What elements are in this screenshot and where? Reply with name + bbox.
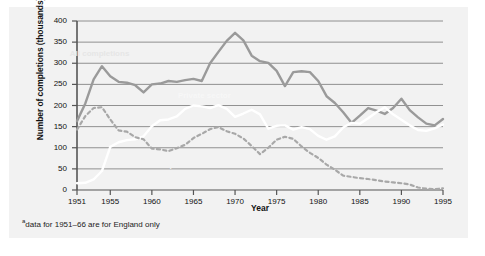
- x-tick-label: 1951: [60, 197, 94, 206]
- x-tick-label: 1995: [426, 197, 460, 206]
- series-label-1: Private sector: [178, 91, 231, 100]
- chart-figure: Number of completions (thousands) 050100…: [0, 0, 485, 256]
- x-tick-label: 1980: [301, 197, 335, 206]
- x-tick-label: 1955: [93, 197, 127, 206]
- y-tick-label: 300: [41, 58, 67, 67]
- y-tick-label: 400: [41, 16, 67, 25]
- y-tick-label: 50: [41, 164, 67, 173]
- x-tick-label: 1960: [135, 197, 169, 206]
- series-line-2: [77, 107, 443, 189]
- y-tick-label: 0: [41, 185, 67, 194]
- y-tick-label: 150: [41, 122, 67, 131]
- x-tick-label: 1990: [384, 197, 418, 206]
- x-axis-title: Year: [220, 203, 300, 213]
- x-tick-label: 1965: [176, 197, 210, 206]
- y-tick-label: 350: [41, 37, 67, 46]
- y-tick-label: 100: [41, 143, 67, 152]
- gridlines: [77, 21, 443, 169]
- y-tick-label: 200: [41, 101, 67, 110]
- y-tick-label: 250: [41, 79, 67, 88]
- chart-footnote: adata for 1951–66 are for England only: [22, 218, 160, 229]
- series-line-1: [77, 105, 443, 183]
- series-label-2: All public sector: [157, 160, 219, 169]
- series-label-0: All completions: [70, 49, 130, 58]
- data-series-group: [77, 33, 443, 189]
- x-tick-label: 1985: [343, 197, 377, 206]
- footnote-text: data for 1951–66 are for England only: [25, 220, 159, 229]
